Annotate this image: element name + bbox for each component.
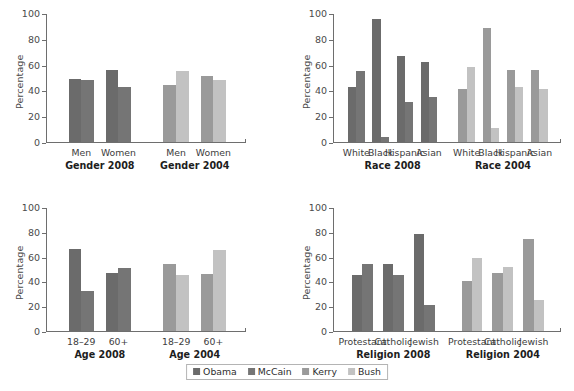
bar xyxy=(523,239,533,331)
legend-swatch-icon xyxy=(348,368,355,375)
y-axis-tick-label: 80 xyxy=(14,228,40,238)
bar xyxy=(397,56,405,142)
y-axis-tick-label: 40 xyxy=(301,277,327,287)
bar xyxy=(405,102,413,142)
x-axis-tick-label: 60+ xyxy=(173,337,253,346)
legend-swatch-icon xyxy=(303,368,310,375)
y-axis-tick-label: 20 xyxy=(301,112,327,122)
bar xyxy=(491,128,499,142)
bar xyxy=(163,264,176,331)
bar xyxy=(515,87,523,142)
bar xyxy=(458,89,466,142)
y-axis-tick-label: 0 xyxy=(301,327,327,337)
bars-container xyxy=(47,14,246,142)
y-axis-tick-label: 60 xyxy=(301,253,327,263)
y-axis-tick xyxy=(42,233,46,234)
bar xyxy=(362,264,372,331)
legend-item: Kerry xyxy=(303,367,337,376)
bar xyxy=(176,275,189,331)
x-axis-line xyxy=(333,331,561,332)
plot-area: 020406080100 xyxy=(46,208,246,332)
bar xyxy=(352,275,362,331)
bar xyxy=(429,97,437,142)
y-axis-tick xyxy=(329,91,333,92)
bar xyxy=(381,137,389,142)
y-axis-tick xyxy=(42,66,46,67)
bar xyxy=(467,67,475,142)
bar xyxy=(531,70,539,142)
x-axis-line xyxy=(46,142,246,143)
bar xyxy=(106,273,119,331)
y-axis-tick xyxy=(42,307,46,308)
y-axis-tick xyxy=(329,143,333,144)
y-axis-tick-label: 0 xyxy=(14,327,40,337)
legend-swatch-icon xyxy=(248,368,255,375)
bar xyxy=(507,70,515,142)
panel-race: Percentage020406080100WhiteBlackHispanic… xyxy=(287,0,574,196)
x-axis-tick-label: Jewish xyxy=(494,337,574,346)
group-label: Race 2004 xyxy=(443,161,563,171)
y-axis-tick xyxy=(42,14,46,15)
bar xyxy=(213,80,226,142)
bar xyxy=(69,79,82,142)
panel-gender: Percentage020406080100MenWomenGender 200… xyxy=(0,0,287,196)
y-axis-tick xyxy=(329,40,333,41)
y-axis-tick xyxy=(42,258,46,259)
plot-area: 020406080100 xyxy=(333,208,561,332)
y-axis-tick xyxy=(329,66,333,67)
legend-swatch-icon xyxy=(193,368,200,375)
plot-area: 020406080100 xyxy=(333,14,561,143)
bars-container xyxy=(334,208,561,331)
bar xyxy=(421,62,429,142)
y-axis-tick-label: 100 xyxy=(301,9,327,19)
bar xyxy=(356,71,364,142)
y-axis-tick-label: 20 xyxy=(301,302,327,312)
bar xyxy=(424,305,434,331)
bar xyxy=(118,268,131,331)
legend-item: Obama xyxy=(193,367,237,376)
y-axis-tick-label: 100 xyxy=(301,203,327,213)
bar xyxy=(462,281,472,331)
y-axis-tick-label: 20 xyxy=(14,302,40,312)
legend-label: Bush xyxy=(358,367,381,376)
y-axis-tick-label: 40 xyxy=(14,86,40,96)
legend-label: Obama xyxy=(203,367,237,376)
y-axis-tick-label: 20 xyxy=(14,112,40,122)
legend-label: Kerry xyxy=(313,367,337,376)
y-axis-tick-label: 40 xyxy=(301,86,327,96)
y-axis-tick xyxy=(42,117,46,118)
bars-container xyxy=(334,14,561,142)
bar xyxy=(393,275,403,331)
x-axis-line xyxy=(46,331,246,332)
x-axis-tick-label: Asian xyxy=(499,148,574,157)
group-label: Race 2008 xyxy=(333,161,453,171)
y-axis-tick xyxy=(42,332,46,333)
y-axis-tick xyxy=(329,282,333,283)
y-axis-tick-label: 80 xyxy=(301,228,327,238)
bar xyxy=(383,264,393,331)
bar xyxy=(372,19,380,142)
bar xyxy=(106,70,119,142)
y-axis-tick-label: 0 xyxy=(301,138,327,148)
y-axis-tick xyxy=(42,143,46,144)
bar xyxy=(176,71,189,142)
y-axis-tick xyxy=(329,258,333,259)
y-axis-tick xyxy=(329,332,333,333)
bar xyxy=(213,250,226,331)
chart-legend: ObamaMcCainKerryBush xyxy=(186,364,388,380)
group-label: Gender 2004 xyxy=(135,161,255,171)
bar xyxy=(483,28,491,142)
legend-item: Bush xyxy=(348,367,381,376)
panel-religion: Percentage020406080100ProtestantCatholic… xyxy=(287,196,574,358)
bar xyxy=(472,258,482,331)
x-axis-line xyxy=(333,142,561,143)
bar xyxy=(539,89,547,142)
y-axis-tick xyxy=(329,307,333,308)
bar xyxy=(201,76,214,142)
y-axis-tick xyxy=(329,233,333,234)
bar xyxy=(118,87,131,142)
y-axis-tick xyxy=(42,40,46,41)
bar xyxy=(69,249,82,331)
y-axis-tick-label: 40 xyxy=(14,277,40,287)
y-axis-tick xyxy=(329,208,333,209)
